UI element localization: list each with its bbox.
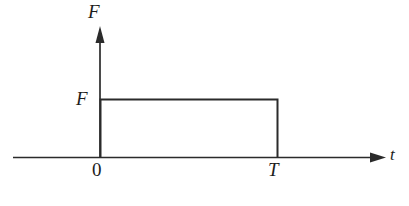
x-axis-arrow-icon	[370, 153, 386, 163]
x-axis-group	[13, 153, 386, 163]
chart-canvas	[0, 0, 409, 206]
origin-label: 0	[92, 160, 102, 179]
force-time-figure: F F 0 T t	[0, 0, 409, 206]
y-axis-title: F	[88, 2, 100, 21]
force-amplitude-label: F	[76, 89, 88, 108]
pulse-end-tick-label: T	[268, 160, 279, 179]
x-axis-title: t	[390, 146, 395, 163]
pulse-waveform-path	[101, 100, 278, 158]
pulse-curve-group	[101, 100, 278, 158]
y-axis-arrow-icon	[96, 26, 105, 43]
